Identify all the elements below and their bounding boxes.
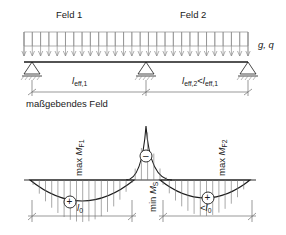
l0-dimension-line [28,200,256,222]
span2-subscript: eff,2 [184,80,197,87]
support-right-triangle [240,62,256,74]
distributed-load-group [24,32,248,56]
support-middle-hatch [135,76,154,80]
span2-ref-subscript: eff,1 [205,80,218,87]
l0-left-label: l0 [77,203,83,213]
max-moment-field1-symbol: M [73,147,84,155]
negative-sign-support: – [143,151,149,161]
support-left-triangle [24,62,40,74]
positive-sign-field1: + [67,197,73,207]
support-left [21,62,42,80]
max-moment-field2-subscript: F2 [221,140,228,148]
span-dimension-line [28,80,252,96]
support-left-hatch [21,76,40,80]
max-moment-field1-label: max MF1 [74,140,84,176]
field1-title: Feld 1 [56,10,82,20]
min-moment-support-label: min MS [148,182,158,212]
load-label: g, q [258,40,274,50]
diagram-canvas [0,0,286,235]
support-right-hatch [237,76,256,80]
span2-label: leff,2<leff,1 [182,76,218,86]
span1-label: leff,1 [72,76,87,86]
l0-right-subscript: 0 [208,207,212,214]
l0-right-label: <l0 [200,203,211,213]
min-moment-support-symbol: M [147,186,158,194]
span1-subscript: eff,1 [74,80,87,87]
l0-left-subscript: 0 [79,207,83,214]
support-middle [135,62,156,80]
load-arrows [22,32,250,56]
support-right [237,62,258,80]
max-moment-field1-subscript: F1 [78,140,85,148]
field2-title: Feld 2 [180,10,206,20]
support-middle-triangle [138,62,154,74]
max-moment-field2-symbol: M [216,147,227,155]
structural-moment-diagram: Feld 1 Feld 2 g, q leff,1 leff,2<leff,1 … [0,0,286,235]
max-moment-field2-label: max MF2 [217,140,227,176]
max-moment-field2-prefix: max [216,155,227,176]
min-moment-support-subscript: S [152,182,159,187]
governing-field-note: maßgebendes Feld [26,99,108,109]
min-moment-support-prefix: min [147,194,158,212]
max-moment-field1-prefix: max [73,155,84,176]
